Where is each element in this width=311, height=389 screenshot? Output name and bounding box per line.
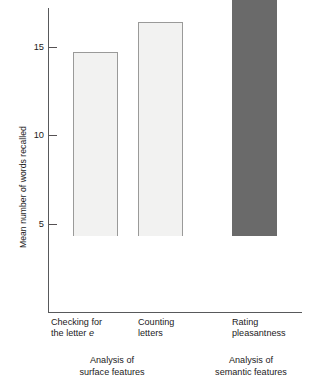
- bar-rating-pleasantness: [232, 0, 277, 236]
- bar-counting-letters: [138, 22, 183, 236]
- x-category-label-line2: the letter: [51, 328, 89, 338]
- group-label-line1: Analysis of: [90, 355, 134, 365]
- group-label-line1: Analysis of: [229, 355, 273, 365]
- group-label-surface-features: Analysis of surface features: [53, 355, 171, 378]
- group-label-semantic-features: Analysis of semantic features: [192, 355, 310, 378]
- group-label-line2: surface features: [79, 367, 144, 377]
- plot-area: [0, 0, 311, 313]
- bar-chart-figure: Mean number of words recalled 15 10 5 Ch…: [0, 0, 311, 389]
- x-category-label-counting: Counting letters: [138, 317, 174, 340]
- x-category-label-line2: pleasantness: [232, 328, 286, 338]
- bar-checking-for-the-letter-e: [73, 52, 118, 236]
- group-label-line2: semantic features: [215, 367, 287, 377]
- x-category-label-checking: Checking for the letter e: [51, 317, 102, 340]
- x-category-label-line1: Checking for: [51, 317, 102, 327]
- x-category-label-italic-letter: e: [89, 328, 94, 338]
- x-category-label-line2: letters: [138, 328, 163, 338]
- x-category-label-line1: Counting: [138, 317, 174, 327]
- x-category-label-line1: Rating: [232, 317, 258, 327]
- x-category-label-rating: Rating pleasantness: [232, 317, 286, 340]
